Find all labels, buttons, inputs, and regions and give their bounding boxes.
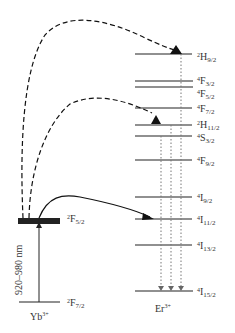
energy-level-diagram: 920–980 nm 2F5/2 2F7/2 Yb3+ 2H9/2 4F3/2 … <box>0 0 235 333</box>
emissions <box>161 54 181 286</box>
yb-levels <box>18 218 60 302</box>
arrowhead-down-icon <box>158 286 164 291</box>
energy-transfers <box>22 20 174 218</box>
transfer-to-4I112 <box>39 196 150 218</box>
er-label-0: 2H9/2 <box>197 51 217 64</box>
er-label-8: 4I11/2 <box>197 214 216 227</box>
er-label-6: 4F9/2 <box>197 155 215 168</box>
transfer-to-2H92 <box>22 20 174 218</box>
arrowhead-down-icon <box>168 286 174 291</box>
er-label-1: 4F3/2 <box>197 75 215 88</box>
er-label-2: 4F5/2 <box>197 88 215 101</box>
er-label-3: 4F7/2 <box>197 103 215 116</box>
er-label-10: 4I15/2 <box>197 286 216 299</box>
arrowhead-4I112-icon <box>142 213 154 220</box>
er-label-4: 2H11/2 <box>197 119 220 132</box>
yb-ion-label: Yb3+ <box>30 311 49 322</box>
arrowhead-down-icon <box>178 286 184 291</box>
emission-arrowheads <box>158 286 184 291</box>
yb-2F72-label: 2F7/2 <box>67 297 85 310</box>
arrowhead-4F72-icon <box>151 115 161 124</box>
er-labels: 2H9/2 4F3/2 4F5/2 4F7/2 2H11/2 4S3/2 4F9… <box>197 51 220 299</box>
er-levels <box>135 54 193 291</box>
er-ion-label: Er3+ <box>155 303 171 314</box>
transfer-to-4F72 <box>29 98 152 218</box>
yb-2F52-label: 2F5/2 <box>67 213 85 226</box>
er-label-7: 4I9/2 <box>197 192 213 205</box>
er-label-9: 4I13/2 <box>197 240 216 253</box>
er-label-5: 4S3/2 <box>197 132 215 145</box>
excitation-label: 920–980 nm <box>13 245 24 296</box>
